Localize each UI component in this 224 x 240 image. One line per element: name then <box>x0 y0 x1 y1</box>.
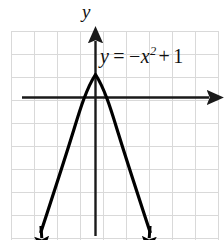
coordinate-plane-svg <box>0 0 224 240</box>
equation-minus: − <box>129 45 141 67</box>
equation-exponent: 2 <box>150 44 157 58</box>
curve-right-arrow-icon <box>149 226 150 238</box>
equation-label: y=−x2+1 <box>100 45 184 66</box>
equation-equals: = <box>113 45 125 67</box>
curve-left-arrow-icon <box>41 226 42 238</box>
graph-figure: y y=−x2+1 <box>0 0 224 240</box>
y-axis-label: y <box>82 2 90 21</box>
equation-plus: + <box>159 45 171 67</box>
equation-constant: 1 <box>173 45 183 67</box>
equation-variable: x <box>141 45 150 67</box>
equation-lhs: y <box>100 45 109 67</box>
